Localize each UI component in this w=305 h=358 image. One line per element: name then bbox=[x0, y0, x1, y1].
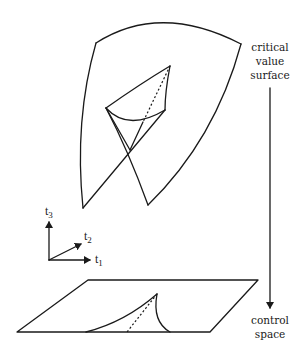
label-line: space bbox=[245, 327, 295, 341]
label-line: value bbox=[245, 54, 295, 68]
control-space-plane bbox=[17, 280, 258, 332]
axis-label-t1: t1 bbox=[95, 252, 103, 268]
label-line: critical bbox=[245, 40, 295, 54]
axis-label-t3: t3 bbox=[45, 204, 53, 220]
label-line: surface bbox=[245, 68, 295, 82]
label-line: control bbox=[245, 313, 295, 327]
label-critical-value-surface: critical value surface bbox=[245, 40, 295, 82]
axis-label-t2: t2 bbox=[84, 229, 92, 245]
cusp-fold bbox=[83, 66, 170, 208]
label-control-space: control space bbox=[245, 313, 295, 341]
